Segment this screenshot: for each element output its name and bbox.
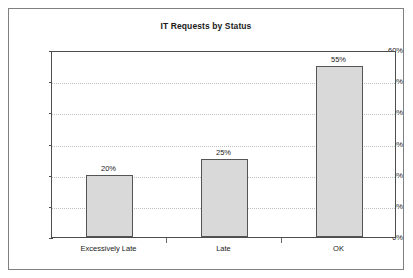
bar-value-label: 55% — [309, 56, 369, 64]
bar-value-label: 25% — [194, 149, 254, 157]
bar[interactable] — [86, 175, 133, 237]
chart-frame: IT Requests by Status 0%10%20%30%40%50%6… — [8, 8, 404, 270]
bar-value-label: 20% — [79, 165, 139, 173]
x-tick-label: Late — [164, 245, 284, 253]
plot-area — [51, 51, 396, 238]
x-tick-label: Excessively Late — [49, 245, 169, 253]
x-tick-mark — [166, 238, 167, 243]
chart-title: IT Requests by Status — [9, 21, 403, 31]
y-tick-mark — [49, 238, 53, 239]
x-tick-label: OK — [279, 245, 399, 253]
bar[interactable] — [316, 66, 363, 237]
bar[interactable] — [201, 159, 248, 237]
x-tick-mark — [281, 238, 282, 243]
